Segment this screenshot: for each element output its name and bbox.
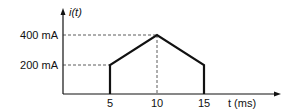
x-tick-15: 15	[198, 97, 210, 109]
y-axis-label: i(t)	[69, 6, 82, 18]
x-axis-label: t (ms)	[228, 97, 256, 109]
x-tick-10: 10	[151, 97, 163, 109]
x-tick-5: 5	[107, 97, 113, 109]
y-axis-arrow-icon	[61, 8, 66, 15]
y-tick-400: 400 mA	[20, 29, 59, 41]
y-tick-200: 200 mA	[20, 59, 59, 71]
x-axis-arrow-icon	[274, 92, 281, 97]
current-waveform-diagram: 400 mA 200 mA 5 10 15 i(t) t (ms)	[0, 0, 288, 111]
